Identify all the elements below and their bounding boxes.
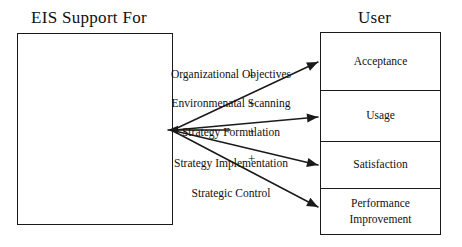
- positive-relation-sign: +: [248, 97, 255, 110]
- user-cell-divider: [321, 90, 440, 91]
- user-outcome-label: Acceptance: [354, 54, 408, 70]
- positive-relation-sign: +: [248, 69, 255, 82]
- eis-support-item: Strategic Control: [0, 187, 462, 199]
- left-group-title: EIS Support For: [31, 8, 147, 28]
- eis-support-item: Strategy Implementation: [0, 157, 462, 169]
- user-outcome-label: PerformanceImprovement: [350, 196, 412, 227]
- user-outcome-label: Usage: [366, 108, 395, 124]
- positive-relation-sign: +: [248, 125, 255, 138]
- eis-support-item: Organizational Objectives: [0, 68, 462, 80]
- positive-relation-sign: +: [248, 152, 255, 165]
- user-cell-divider: [321, 141, 440, 142]
- eis-support-item: Strategy Formulation: [0, 126, 462, 138]
- eis-support-item: Environmenatal Scanning: [0, 97, 462, 109]
- right-group-title: User: [358, 8, 391, 28]
- user-outcome-cell: Acceptance: [321, 33, 440, 90]
- diagram-canvas: EIS Support For User AcceptanceUsageSati…: [0, 0, 462, 247]
